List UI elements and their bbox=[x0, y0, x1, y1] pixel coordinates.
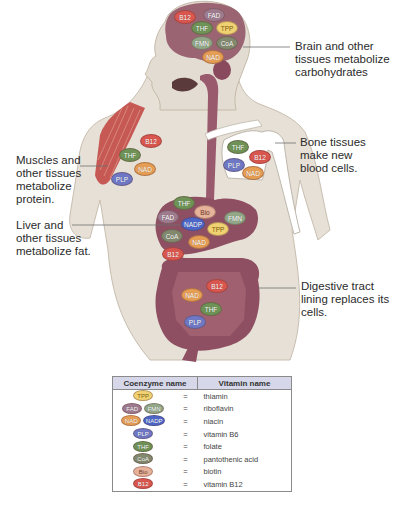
annotation-line: lining replaces its bbox=[301, 293, 389, 306]
annotation-line: make new bbox=[300, 149, 366, 162]
equals-sign: = bbox=[173, 390, 197, 403]
vitamin-name: thiamin bbox=[198, 390, 292, 403]
vitamin-name: biotin bbox=[198, 466, 292, 479]
badge-plp: PLP bbox=[111, 172, 133, 186]
annotation-line: other tissues bbox=[16, 167, 81, 180]
badge-thf: THF bbox=[119, 148, 141, 162]
table-row: FADFMN = riboflavin bbox=[113, 403, 292, 416]
annotation-line: metabolize fat. bbox=[16, 245, 91, 258]
badge-b12: B12 bbox=[133, 478, 153, 489]
badge-thf: THF bbox=[191, 21, 213, 35]
badge-tpp: TPP bbox=[133, 390, 153, 401]
header-coenzyme-name: Coenzyme name bbox=[113, 377, 198, 390]
badge-plp: PLP bbox=[133, 428, 153, 439]
annotation-liver: Liver and other tissues metabolize fat. bbox=[16, 219, 91, 258]
annotation-line: protein. bbox=[16, 193, 81, 206]
equals-sign: = bbox=[173, 478, 197, 491]
annotation-line: carbohydrates bbox=[295, 66, 390, 79]
badge-coa: CoA bbox=[216, 36, 238, 50]
equals-sign: = bbox=[173, 403, 197, 416]
annotation-line: Brain and other bbox=[295, 40, 390, 53]
badge-tpp: TPP bbox=[216, 21, 238, 35]
badge-nad: NAD bbox=[134, 162, 156, 176]
badge-b12: B12 bbox=[162, 247, 184, 261]
vitamin-name: vitamin B12 bbox=[198, 478, 292, 491]
badge-thf: THF bbox=[227, 140, 249, 154]
table-row: NADNADP = niacin bbox=[113, 415, 292, 428]
annotation-line: metabolize bbox=[16, 180, 81, 193]
badge-bio: Bio bbox=[133, 466, 153, 477]
vitamin-name: niacin bbox=[198, 415, 292, 428]
annotation-muscle: Muscles and other tissues metabolize pro… bbox=[16, 154, 81, 206]
table-row: PLP = vitamin B6 bbox=[113, 428, 292, 441]
badge-thf: THF bbox=[133, 441, 153, 452]
badge-fmn: FMN bbox=[144, 403, 164, 414]
badge-thf: THF bbox=[173, 196, 195, 210]
vitamin-name: vitamin B6 bbox=[198, 428, 292, 441]
annotation-line: Liver and bbox=[16, 219, 91, 232]
equals-sign: = bbox=[173, 453, 197, 466]
badge-nadp: NADP bbox=[181, 217, 205, 231]
coenzyme-vitamin-table: Coenzyme name Vitamin name TPP = thiamin… bbox=[112, 376, 292, 492]
badge-fad: FAD bbox=[203, 8, 225, 22]
annotation-line: Digestive tract bbox=[301, 280, 389, 293]
badge-thf: THF bbox=[200, 302, 222, 316]
badge-fmn: FMN bbox=[191, 36, 213, 50]
equals-sign: = bbox=[173, 440, 197, 453]
annotation-line: blood cells. bbox=[300, 162, 366, 175]
table-row: B12 = vitamin B12 bbox=[113, 478, 292, 491]
badge-nad: NAD bbox=[188, 235, 210, 249]
equals-sign: = bbox=[173, 428, 197, 441]
badge-coa: CoA bbox=[161, 229, 183, 243]
table-header-row: Coenzyme name Vitamin name bbox=[113, 377, 292, 390]
table-row: CoA = pantothenic acid bbox=[113, 453, 292, 466]
badge-b12: B12 bbox=[174, 10, 196, 24]
equals-sign: = bbox=[173, 415, 197, 428]
annotation-brain: Brain and other tissues metabolize carbo… bbox=[295, 40, 390, 79]
table-row: Bio = biotin bbox=[113, 466, 292, 479]
badge-nadp: NADP bbox=[143, 415, 165, 426]
badge-nad: NAD bbox=[202, 50, 224, 64]
badge-nad: NAD bbox=[242, 166, 264, 180]
badge-fmn: FMN bbox=[224, 211, 246, 225]
vitamin-name: pantothenic acid bbox=[198, 453, 292, 466]
badge-b12: B12 bbox=[249, 150, 271, 164]
header-vitamin-name: Vitamin name bbox=[198, 377, 292, 390]
badge-plp: PLP bbox=[184, 315, 206, 329]
badge-fad: FAD bbox=[122, 403, 142, 414]
table-row: TPP = thiamin bbox=[113, 390, 292, 403]
badge-tpp: TPP bbox=[207, 222, 229, 236]
badge-nad: NAD bbox=[121, 415, 141, 426]
equals-sign: = bbox=[173, 466, 197, 479]
annotation-line: tissues metabolize bbox=[295, 53, 390, 66]
badge-nad: NAD bbox=[181, 288, 203, 302]
vitamin-name: folate bbox=[198, 440, 292, 453]
annotation-line: other tissues bbox=[16, 232, 91, 245]
badge-b12: B12 bbox=[206, 279, 228, 293]
annotation-digestive: Digestive tract lining replaces its cell… bbox=[301, 280, 389, 319]
annotation-bone: Bone tissues make new blood cells. bbox=[300, 136, 366, 175]
annotation-line: Muscles and bbox=[16, 154, 81, 167]
vitamin-name: riboflavin bbox=[198, 403, 292, 416]
badge-fad: FAD bbox=[157, 210, 179, 224]
badge-coa: CoA bbox=[133, 453, 153, 464]
badge-b12: B12 bbox=[140, 134, 162, 148]
annotation-line: Bone tissues bbox=[300, 136, 366, 149]
table-row: THF = folate bbox=[113, 440, 292, 453]
annotation-line: cells. bbox=[301, 306, 389, 319]
